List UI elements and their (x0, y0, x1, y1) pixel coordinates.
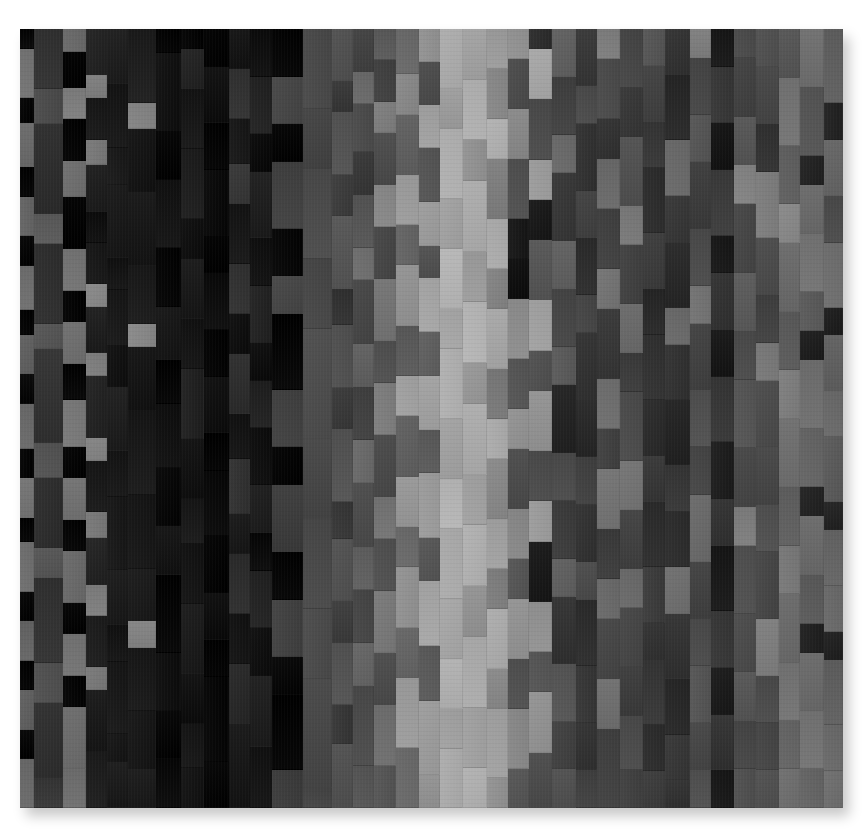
quilt-patch (229, 354, 250, 414)
quilt-patch (374, 653, 395, 705)
quilt-patch (756, 29, 779, 67)
quilt-patch (779, 204, 800, 243)
quilt-patch (487, 569, 508, 609)
quilt-column (824, 29, 843, 808)
quilt-patch (440, 419, 463, 479)
quilt-patch (779, 29, 800, 78)
quilt-patch (508, 659, 529, 709)
quilt-column (620, 29, 643, 808)
quilt-patch (204, 170, 229, 236)
quilt-patch (800, 185, 823, 234)
quilt-patch (86, 212, 107, 243)
quilt-patch (250, 29, 271, 77)
quilt-patch (690, 447, 711, 495)
quilt-patch (204, 330, 229, 377)
quilt-patch (552, 135, 575, 174)
quilt-patch (440, 529, 463, 599)
quilt-patch (34, 778, 63, 808)
quilt-patch (440, 659, 463, 709)
quilt-patch (332, 539, 353, 601)
quilt-patch (779, 721, 800, 769)
quilt-patch (576, 238, 597, 295)
quilt-patch (779, 243, 800, 311)
quilt-patch (508, 599, 529, 659)
quilt-patch (250, 286, 271, 343)
quilt-patch (529, 160, 552, 200)
quilt-patch (800, 624, 823, 653)
quilt-patch (332, 216, 353, 289)
quilt-patch (181, 604, 204, 674)
quilt-patch (756, 381, 779, 448)
quilt-patch (396, 678, 419, 748)
quilt-patch (734, 273, 755, 331)
quilt-patch (250, 343, 271, 381)
quilt-patch (303, 29, 332, 109)
quilt-patch (419, 202, 440, 245)
quilt-patch (529, 652, 552, 692)
quilt-patch (86, 353, 107, 376)
quilt-column (86, 29, 107, 808)
quilt-patch (229, 664, 250, 724)
quilt-patch (620, 770, 643, 808)
quilt-patch (690, 162, 711, 229)
quilt-patch (128, 266, 155, 324)
quilt-patch (204, 377, 229, 433)
quilt-patch (204, 762, 229, 808)
quilt-column (552, 29, 575, 808)
quilt-patch (529, 49, 552, 99)
quilt-patch (620, 353, 643, 392)
quilt-patch (332, 325, 353, 387)
quilt-patch (756, 723, 779, 770)
quilt-patch (374, 60, 395, 102)
quilt-patch (529, 99, 552, 159)
quilt-patch (665, 140, 690, 196)
quilt-patch (734, 546, 755, 614)
quilt-patch (508, 409, 529, 449)
quilt-patch (396, 265, 419, 325)
quilt-patch (440, 309, 463, 349)
quilt-patch (665, 400, 690, 465)
quilt-patch (272, 124, 303, 162)
quilt-patch (63, 769, 86, 807)
quilt-patch (63, 291, 86, 322)
quilt-patch (690, 495, 711, 562)
quilt-patch (800, 360, 823, 428)
quilt-patch (643, 771, 664, 808)
quilt-patch (800, 516, 823, 574)
quilt-patch (374, 766, 395, 808)
quilt-patch (508, 159, 529, 219)
quilt-patch (597, 529, 620, 579)
quilt-patch (374, 29, 395, 60)
quilt-patch (690, 390, 711, 447)
quilt-patch (20, 374, 34, 404)
quilt-patch (86, 616, 107, 668)
quilt-patch (552, 501, 575, 559)
quilt-patch (181, 89, 204, 149)
quilt-patch (86, 75, 107, 98)
quilt-column (229, 29, 250, 808)
quilt-patch (620, 88, 643, 137)
quilt-patch (597, 619, 620, 679)
quilt-patch (756, 505, 779, 553)
quilt-patch (374, 705, 395, 766)
quilt-patch (86, 667, 107, 690)
quilt-column (508, 29, 529, 808)
quilt-patch (552, 769, 575, 808)
quilt-patch (643, 567, 664, 623)
quilt-patch (529, 300, 552, 350)
quilt-patch (128, 129, 155, 192)
quilt-patch (597, 729, 620, 808)
quilt-patch (34, 478, 63, 548)
quilt-patch (643, 168, 664, 233)
quilt-patch (181, 544, 204, 604)
quilt-patch (86, 438, 107, 461)
quilt-patch (229, 614, 250, 664)
quilt-patch (552, 597, 575, 664)
quilt-patch (419, 29, 440, 62)
quilt-patch (419, 376, 440, 430)
quilt-patch (419, 473, 440, 538)
quilt-patch (824, 29, 843, 103)
quilt-patch (487, 609, 508, 669)
quilt-patch (463, 363, 486, 404)
quilt-patch (824, 725, 843, 770)
